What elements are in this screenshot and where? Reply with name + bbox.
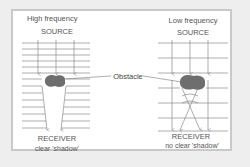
right-source-label: SOURCE: [174, 28, 212, 37]
right-receiver-label: RECEIVER: [168, 132, 214, 141]
right-caption: no clear 'shadow': [160, 142, 224, 149]
left-receiver-label: RECEIVER: [34, 134, 80, 143]
right-title: Low frequency: [163, 16, 223, 25]
left-source-label: SOURCE: [40, 27, 74, 36]
obstacle-label: Obstacle: [111, 72, 145, 81]
obstacle-shape-right: [180, 75, 205, 90]
left-title: High frequency: [27, 14, 87, 23]
obstacle-shape-left: [45, 75, 65, 87]
left-caption: clear 'shadow': [28, 145, 86, 152]
